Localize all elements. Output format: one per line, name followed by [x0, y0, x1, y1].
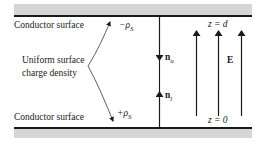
- negative-charge-label: −ρS: [119, 21, 133, 33]
- annotation-line-2: charge density: [22, 69, 77, 79]
- upper-conductor-label: Conductor surface: [14, 21, 84, 31]
- z-equals-d-label: z = d: [208, 20, 228, 30]
- electric-field-label: E: [227, 56, 233, 66]
- positive-charge-label: +ρS: [117, 109, 131, 121]
- lower-conductor-label: Conductor surface: [14, 113, 84, 123]
- subscript-u: u: [170, 57, 174, 65]
- normal-upper-label: nu: [165, 53, 174, 65]
- rho-symbol: +ρ: [117, 108, 128, 118]
- subscript-s: S: [130, 25, 134, 33]
- subscript-l: l: [170, 95, 172, 103]
- rho-symbol: −ρ: [119, 20, 130, 30]
- subscript-s: S: [128, 113, 132, 121]
- z-equals-0-label: z = 0: [208, 116, 228, 126]
- annotation-line-1: Uniform surface: [22, 56, 85, 66]
- pointer-to-upper-charge: [88, 22, 110, 66]
- normal-lower-label: nl: [165, 91, 172, 103]
- pointer-to-lower-charge: [88, 66, 113, 121]
